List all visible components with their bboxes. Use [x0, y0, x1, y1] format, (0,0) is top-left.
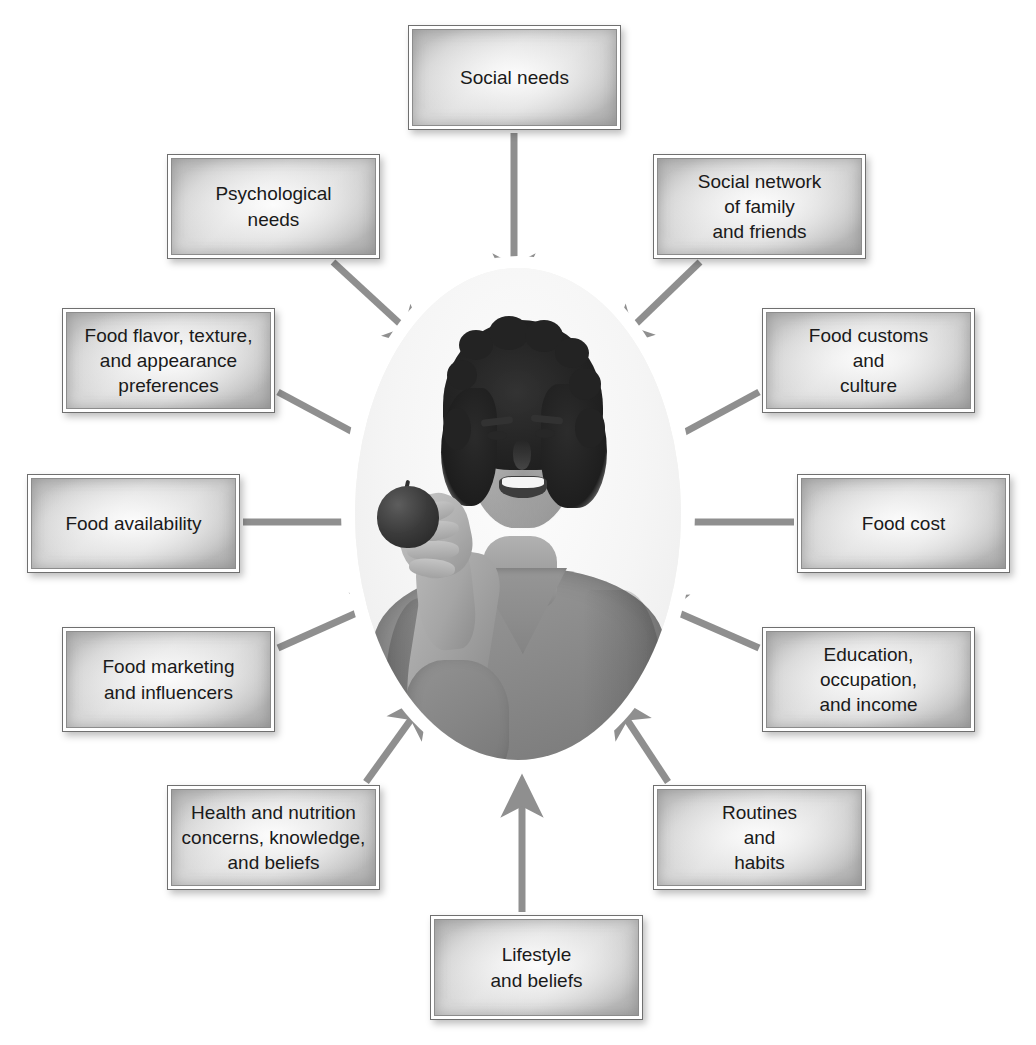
photo-scene	[355, 268, 681, 760]
eye-left	[487, 431, 507, 440]
node-inner-frame: Education, occupation, and income	[766, 631, 971, 728]
node-food-flavor-texture-appearance[interactable]: Food flavor, texture, and appearance pre…	[62, 308, 275, 413]
hair-curl	[459, 330, 493, 360]
node-inner-frame: Food marketing and influencers	[66, 631, 271, 728]
hair-curl	[555, 338, 589, 368]
node-label: Health and nutrition concerns, knowledge…	[176, 800, 372, 875]
node-label: Food availability	[59, 511, 207, 536]
node-routines-habits[interactable]: Routines and habits	[653, 785, 866, 890]
node-food-customs-culture[interactable]: Food customs and culture	[762, 308, 975, 413]
node-psychological-needs[interactable]: Psychological needs	[167, 154, 380, 259]
node-inner-frame: Food availability	[31, 478, 236, 569]
eye-right	[535, 429, 555, 438]
diagram-canvas: Social needsPsychological needsSocial ne…	[0, 0, 1036, 1045]
node-food-marketing-influencers[interactable]: Food marketing and influencers	[62, 627, 275, 732]
center-photo	[355, 268, 681, 760]
sleeve	[405, 660, 509, 760]
hair-curl	[443, 408, 471, 450]
node-label: Food customs and culture	[803, 323, 934, 398]
node-inner-frame: Social needs	[412, 29, 617, 126]
node-inner-frame: Health and nutrition concerns, knowledge…	[171, 789, 376, 886]
node-label: Social needs	[454, 65, 575, 90]
node-education-occupation-income[interactable]: Education, occupation, and income	[762, 627, 975, 732]
node-inner-frame: Social network of family and friends	[657, 158, 862, 255]
teeth	[502, 477, 544, 488]
hair-curl	[569, 368, 601, 400]
hair-curl	[575, 408, 605, 448]
node-health-nutrition-concerns[interactable]: Health and nutrition concerns, knowledge…	[167, 785, 380, 890]
node-inner-frame: Food flavor, texture, and appearance pre…	[66, 312, 271, 409]
node-social-needs[interactable]: Social needs	[408, 25, 621, 130]
node-label: Psychological needs	[209, 181, 337, 231]
nose	[513, 440, 531, 470]
cropped-caption-text	[0, 0, 1036, 8]
node-inner-frame: Food customs and culture	[766, 312, 971, 409]
node-lifestyle-beliefs[interactable]: Lifestyle and beliefs	[430, 915, 643, 1020]
node-label: Routines and habits	[716, 800, 803, 875]
node-inner-frame: Routines and habits	[657, 789, 862, 886]
photo-oval-frame	[355, 268, 681, 760]
hair-curl	[489, 316, 529, 350]
node-social-network[interactable]: Social network of family and friends	[653, 154, 866, 259]
node-label: Lifestyle and beliefs	[485, 942, 589, 992]
node-inner-frame: Food cost	[801, 478, 1006, 569]
node-label: Social network of family and friends	[692, 169, 828, 244]
node-label: Food cost	[856, 511, 951, 536]
smiling-mouth	[499, 476, 547, 498]
node-label: Food marketing and influencers	[96, 654, 240, 704]
node-label: Education, occupation, and income	[813, 642, 923, 717]
node-food-availability[interactable]: Food availability	[27, 474, 240, 573]
apple	[377, 486, 439, 548]
node-food-cost[interactable]: Food cost	[797, 474, 1010, 573]
node-inner-frame: Lifestyle and beliefs	[434, 919, 639, 1016]
hair-curl	[447, 360, 477, 390]
node-inner-frame: Psychological needs	[171, 158, 376, 255]
node-label: Food flavor, texture, and appearance pre…	[79, 323, 259, 398]
